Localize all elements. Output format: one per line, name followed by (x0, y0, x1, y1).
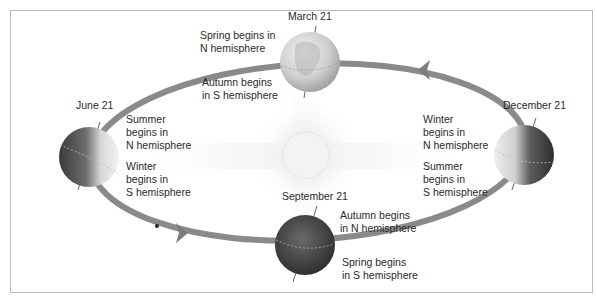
arrow-left-icon (418, 60, 430, 80)
date-label-march: March 21 (288, 10, 332, 22)
globe-june-icon (59, 122, 119, 190)
orbit-diagram (0, 0, 597, 297)
date-label-september: September 21 (282, 190, 348, 202)
note-december-north: Winter begins in N hemisphere (423, 113, 488, 152)
sun-icon (283, 132, 329, 178)
globe-september-icon (275, 206, 335, 282)
note-june-north: Summer begins in N hemisphere (126, 113, 191, 152)
note-december-south: Summer begins in S hemisphere (423, 160, 488, 199)
arrow-right-icon (176, 223, 188, 243)
note-september-south: Spring begins in S hemisphere (342, 256, 418, 282)
date-label-june: June 21 (76, 99, 113, 111)
note-june-south: Winter begins in S hemisphere (126, 160, 191, 199)
note-march-north: Spring begins in N hemisphere (200, 29, 275, 55)
date-label-december: December 21 (503, 99, 566, 111)
note-march-south: Autumn begins in S hemisphere (202, 76, 278, 102)
note-september-north: Autumn begins in N hemisphere (340, 209, 416, 235)
speck (155, 224, 159, 228)
globe-march-icon (280, 26, 340, 98)
